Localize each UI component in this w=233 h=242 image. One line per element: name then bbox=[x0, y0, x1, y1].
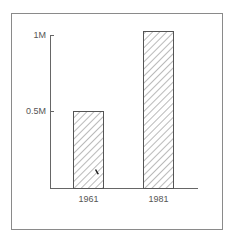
bar-1981 bbox=[144, 32, 174, 189]
y-tick-label-05m: 0.5M bbox=[26, 106, 46, 116]
x-label-1961: 1961 bbox=[78, 194, 98, 204]
y-tick-label-1m: 1M bbox=[33, 30, 46, 40]
bar-1961 bbox=[74, 112, 104, 189]
bar-chart: 1M 0.5M 1961 1981 bbox=[0, 0, 233, 242]
x-label-1981: 1981 bbox=[148, 194, 168, 204]
